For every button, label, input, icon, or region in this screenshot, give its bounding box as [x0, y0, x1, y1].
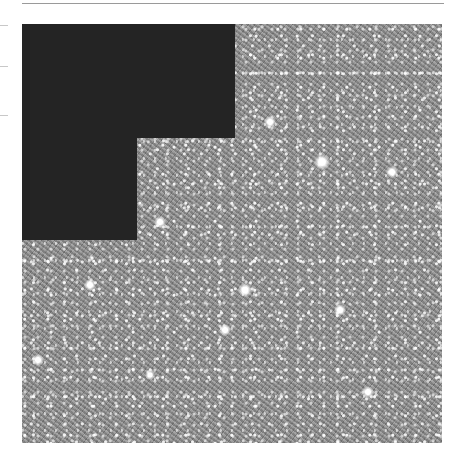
bright-star: [219, 324, 231, 336]
bright-star: [334, 304, 346, 316]
bright-star: [145, 370, 155, 380]
bright-star: [84, 279, 96, 291]
masked-region-bottom: [22, 138, 137, 240]
left-tick-mark: [0, 66, 8, 67]
bright-star: [264, 116, 276, 128]
star-field-image: [22, 24, 442, 443]
bright-star: [154, 216, 166, 228]
bright-star: [314, 154, 330, 170]
bright-star: [386, 166, 398, 178]
masked-region-top: [22, 24, 235, 138]
left-tick-mark: [0, 25, 8, 26]
bright-star: [238, 283, 252, 297]
bright-star: [32, 354, 44, 366]
top-rule: [22, 3, 444, 4]
left-tick-mark: [0, 115, 8, 116]
bright-star: [362, 386, 374, 398]
